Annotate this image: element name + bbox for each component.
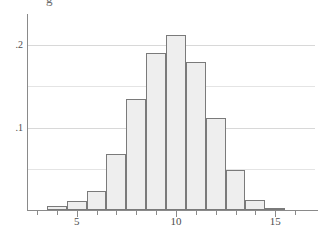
x-axis-tick-label: 5 xyxy=(67,215,87,227)
y-axis-tick-label: .2 xyxy=(3,39,23,50)
x-axis-minor-tick xyxy=(196,211,197,215)
y-axis-line xyxy=(27,14,28,210)
x-axis-minor-tick xyxy=(136,211,137,215)
x-axis-tick-label: 15 xyxy=(265,215,285,227)
histogram-bar xyxy=(186,62,206,211)
x-axis-minor-tick xyxy=(116,211,117,215)
histogram-bar xyxy=(166,35,186,210)
x-axis-minor-tick xyxy=(97,211,98,215)
histogram-bar xyxy=(67,201,87,210)
histogram-bar xyxy=(146,53,166,210)
x-axis-minor-tick xyxy=(156,211,157,215)
histogram-bar xyxy=(87,191,107,210)
histogram-bar xyxy=(245,200,265,210)
y-axis-tick-label: .1 xyxy=(3,122,23,133)
histogram-bar xyxy=(106,154,126,210)
histogram-bar xyxy=(206,118,226,210)
histogram-bar xyxy=(226,170,246,210)
x-axis-minor-tick xyxy=(57,211,58,215)
x-axis-minor-tick xyxy=(216,211,217,215)
x-axis-minor-tick xyxy=(236,211,237,215)
plot-area: 51015.1.2 xyxy=(0,0,328,235)
x-axis-minor-tick xyxy=(295,211,296,215)
x-axis-tick-label: 10 xyxy=(166,215,186,227)
histogram-bar xyxy=(126,99,146,210)
histogram-figure: g 51015.1.2 xyxy=(0,0,328,235)
x-axis-minor-tick xyxy=(37,211,38,215)
x-axis-minor-tick xyxy=(255,211,256,215)
